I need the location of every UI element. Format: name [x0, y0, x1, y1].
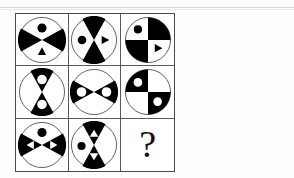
mark-circle-white-left: [77, 87, 87, 97]
matrix-cell-6[interactable]: [121, 66, 174, 118]
wedge-top-right-black: [148, 17, 171, 40]
question-mark-label: ?: [139, 125, 156, 163]
mark-circle-white-top-left: [133, 78, 142, 87]
matrix-cell-4[interactable]: [16, 66, 69, 118]
matrix-puzzle-grid: ?: [15, 13, 175, 172]
mark-circle-white-bottom: [37, 100, 47, 110]
figure-circle-x-black-top-bottom-white-dots: [18, 68, 66, 116]
matrix-cell-8[interactable]: [69, 119, 122, 171]
figure-circle-cross-black-tl-br-white-dots: [124, 68, 172, 116]
figure-circle-x-black-left-right-white-triangles-black-dot: [18, 121, 66, 169]
matrix-cell-9-answer-slot[interactable]: ?: [121, 119, 174, 171]
scan-artifact-line-top: [0, 7, 294, 8]
mark-circle-black-top: [37, 128, 46, 137]
figure-circle-x-black-top-bottom-white-triangles-black-dot: [70, 121, 118, 169]
mark-circle-white-right: [102, 87, 112, 97]
figure-circle-x-black-left-right-dot-triangle: [18, 16, 66, 64]
mark-circle-black-top-left: [133, 25, 141, 33]
mark-circle-black-left: [78, 35, 87, 44]
matrix-cell-2[interactable]: [69, 14, 122, 66]
matrix-cell-1[interactable]: [16, 14, 69, 66]
figure-circle-x-black-top-bottom-dot-triangle: [70, 16, 118, 64]
mark-circle-white-top: [37, 75, 47, 85]
figure-circle-x-black-left-right-white-dots: [70, 68, 118, 116]
blank-page-area: [176, 10, 294, 178]
wedge-bottom-left-black: [125, 40, 148, 63]
mark-circle-black-left: [78, 142, 86, 150]
mark-circle-black-top: [37, 23, 46, 32]
figure-circle-cross-black-tr-bl-dot-triangle: [124, 16, 172, 64]
matrix-cell-7[interactable]: [16, 119, 69, 171]
mark-circle-white-bottom-right: [153, 97, 162, 106]
matrix-cell-3[interactable]: [121, 14, 174, 66]
matrix-cell-5[interactable]: [69, 66, 122, 118]
